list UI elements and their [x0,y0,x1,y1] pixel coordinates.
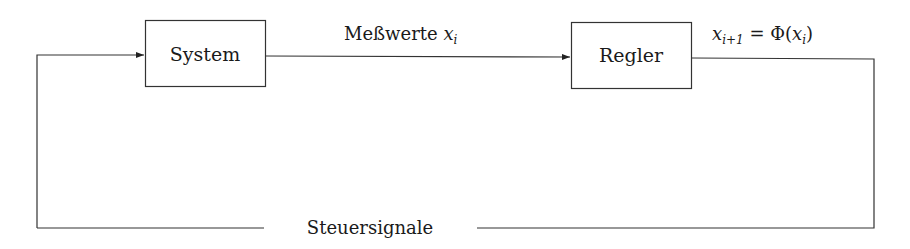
update-rule-label: xi+1 = Φ(xi) [712,23,813,47]
system-label: System [170,43,240,65]
output-feedback-line [692,58,874,228]
update-rule-close: ) [806,23,813,44]
measurement-label-text: Meßwerte [344,23,443,44]
update-rule-var2: x [792,23,802,44]
control-loop-diagram: System Meßwerte xi Regler xi+1 = Φ(xi) S… [0,0,910,249]
measurement-edge [266,56,570,57]
measurement-label-sub: i [454,33,458,47]
update-rule-var: x [712,23,722,44]
measurement-label: Meßwerte xi [344,23,458,47]
control-signals-label: Steuersignale [307,217,433,238]
measurement-label-var: x [443,23,453,44]
regler-label: Regler [599,44,664,66]
feedback-left-line [37,55,144,228]
update-rule-eq: = Φ( [744,23,792,44]
update-rule-sub1: i+1 [722,33,744,47]
